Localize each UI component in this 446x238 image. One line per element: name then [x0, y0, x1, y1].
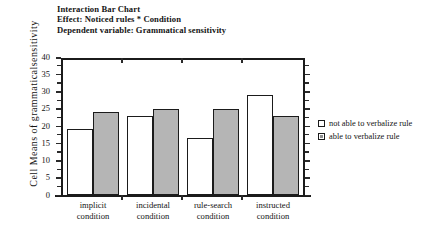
bar-instructed-able[interactable] [273, 116, 299, 195]
y-tick-25: 25 [56, 108, 61, 110]
y-tick-30: 30 [56, 91, 61, 93]
y-minor-tick [57, 186, 61, 187]
y-tick-15: 15 [56, 143, 61, 145]
plot-area: 0 5 10 15 20 25 30 35 40 [61, 58, 305, 196]
y-right-tick [305, 126, 310, 128]
y-minor-tick [57, 169, 61, 170]
chart-title-line3: Dependent variable: Grammatical sensitiv… [57, 25, 226, 35]
y-tick-label-30: 30 [28, 87, 50, 96]
y-tick-label-5: 5 [28, 173, 50, 182]
bar-implicit-able[interactable] [93, 112, 119, 195]
legend-item-able[interactable]: able to verbalize rule [318, 130, 412, 143]
bar-group-incidental [123, 58, 183, 195]
legend-label-not-able: not able to verbalize rule [329, 117, 412, 130]
y-tick-label-25: 25 [28, 104, 50, 113]
x-label-rule-search-line1: rule-search [183, 200, 243, 211]
y-right-tick [305, 91, 310, 93]
y-right-tick [305, 169, 309, 170]
bar-groups [63, 58, 303, 195]
y-minor-tick [57, 65, 61, 66]
chart-root: Interaction Bar Chart Effect: Noticed ru… [0, 0, 446, 238]
chart-title-line1: Interaction Bar Chart [57, 4, 226, 14]
y-right-tick [305, 65, 309, 66]
y-right-tick [305, 151, 309, 152]
legend-item-not-able[interactable]: not able to verbalize rule [318, 117, 412, 130]
x-label-implicit: implicit condition [63, 200, 123, 222]
bar-instructed-not-able[interactable] [247, 95, 273, 195]
y-tick-label-40: 40 [28, 53, 50, 62]
bar-group-rule-search [183, 58, 243, 195]
chart-title-line2: Effect: Noticed rules * Condition [57, 14, 226, 24]
bar-rule-search-able[interactable] [213, 109, 239, 195]
y-tick-label-20: 20 [28, 122, 50, 131]
y-right-tick [305, 186, 309, 187]
y-minor-tick [57, 100, 61, 101]
y-right-tick [305, 195, 310, 197]
x-label-incidental-line2: condition [123, 211, 183, 222]
y-minor-tick [57, 151, 61, 152]
white-square-icon [318, 120, 325, 127]
y-right-tick [305, 160, 310, 162]
y-tick-40: 40 [56, 57, 61, 59]
y-right-tick [305, 117, 309, 118]
y-tick-0: 0 [56, 195, 61, 197]
y-minor-tick [57, 134, 61, 135]
x-label-rule-search-line2: condition [183, 211, 243, 222]
legend-label-able: able to verbalize rule [329, 130, 399, 143]
x-axis-line [55, 195, 311, 197]
x-label-rule-search: rule-search condition [183, 200, 243, 222]
y-right-tick [305, 108, 310, 110]
x-label-instructed-line2: condition [243, 211, 303, 222]
bar-incidental-able[interactable] [153, 109, 179, 195]
x-label-implicit-line1: implicit [63, 200, 123, 211]
y-right-tick [305, 82, 309, 83]
y-right-tick [305, 177, 310, 179]
x-axis-labels: implicit condition incidental condition … [63, 200, 303, 222]
x-label-instructed: instructed condition [243, 200, 303, 222]
bar-group-implicit [63, 58, 123, 195]
bar-group-instructed [243, 58, 303, 195]
y-right-tick [305, 143, 310, 145]
y-tick-35: 35 [56, 74, 61, 76]
chart-legend: not able to verbalize rule able to verba… [318, 117, 412, 143]
y-tick-label-15: 15 [28, 139, 50, 148]
chart-title-block: Interaction Bar Chart Effect: Noticed ru… [57, 4, 226, 35]
y-tick-label-10: 10 [28, 156, 50, 165]
bar-rule-search-not-able[interactable] [187, 138, 213, 195]
gray-square-icon [318, 133, 325, 140]
y-tick-20: 20 [56, 126, 61, 128]
bar-incidental-not-able[interactable] [127, 116, 153, 195]
y-right-tick [305, 74, 310, 76]
x-label-instructed-line1: instructed [243, 200, 303, 211]
y-tick-5: 5 [56, 177, 61, 179]
y-tick-10: 10 [56, 160, 61, 162]
y-minor-tick [57, 117, 61, 118]
bar-implicit-not-able[interactable] [67, 129, 93, 195]
y-minor-tick [57, 82, 61, 83]
y-right-tick [305, 100, 309, 101]
y-right-tick [305, 134, 309, 135]
y-tick-label-0: 0 [28, 191, 50, 200]
x-label-implicit-line2: condition [63, 211, 123, 222]
y-tick-label-35: 35 [28, 70, 50, 79]
x-label-incidental: incidental condition [123, 200, 183, 222]
x-label-incidental-line1: incidental [123, 200, 183, 211]
